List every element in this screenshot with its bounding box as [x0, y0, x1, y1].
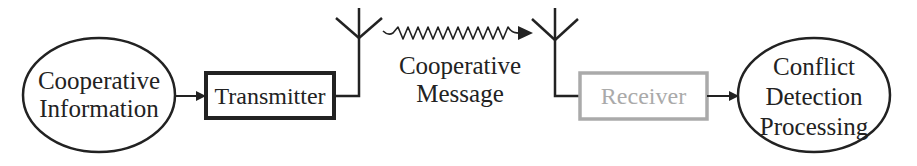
sink-label-line1: Conflict	[738, 52, 890, 82]
antenna-icon-transmit	[334, 8, 382, 96]
message-label: Cooperative Message	[380, 52, 540, 108]
sink-label-line2: Detection	[738, 82, 890, 112]
sink-label: Conflict Detection Processing	[738, 52, 890, 142]
diagram-canvas: Cooperative Information Transmitter Coop…	[0, 0, 917, 166]
message-label-line2: Message	[380, 80, 540, 108]
transmitter-label: Transmitter	[206, 82, 334, 110]
message-label-line1: Cooperative	[380, 52, 540, 80]
source-label-line2: Information	[23, 95, 175, 123]
source-label-line1: Cooperative	[23, 67, 175, 95]
wireless-wave-arrow-icon	[383, 26, 533, 40]
sink-label-line3: Processing	[738, 112, 890, 142]
receiver-label: Receiver	[580, 82, 707, 110]
source-label: Cooperative Information	[23, 67, 175, 123]
